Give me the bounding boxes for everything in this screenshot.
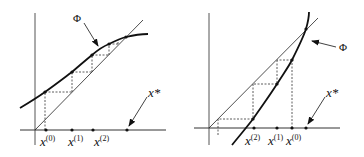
svg-text:x(1): x(1)	[67, 134, 83, 149]
phi-curve	[20, 34, 148, 108]
svg-text:x(0): x(0)	[39, 134, 55, 149]
svg-text:x(1): x(1)	[267, 133, 283, 148]
left-panel: Φ x* x(0) x(1) x(2)	[20, 12, 166, 149]
svg-text:x(0): x(0)	[285, 133, 301, 148]
fixed-point-arrow	[129, 97, 147, 126]
right-panel: Φ x* x(2) x(1) x(0)	[194, 12, 347, 148]
svg-text:x(2): x(2)	[244, 133, 260, 148]
fixed-point-label: x*	[147, 85, 161, 100]
iterate-labels: x(0) x(1) x(2)	[39, 134, 109, 149]
phi-label: Φ	[339, 41, 347, 53]
fixed-point-iteration-figure: Φ x* x(0) x(1) x(2) Φ x*	[0, 0, 364, 157]
cobweb-lines	[218, 60, 292, 136]
phi-arrow	[312, 41, 336, 47]
phi-arrow	[84, 23, 98, 46]
iterate-labels: x(2) x(1) x(0)	[244, 133, 301, 148]
diagonal-line	[209, 18, 318, 128]
phi-curve	[232, 12, 309, 145]
fixed-point-arrow	[308, 97, 325, 124]
svg-text:x(2): x(2)	[93, 134, 109, 149]
phi-label: Φ	[73, 12, 81, 24]
fixed-point-label: x*	[325, 85, 339, 100]
